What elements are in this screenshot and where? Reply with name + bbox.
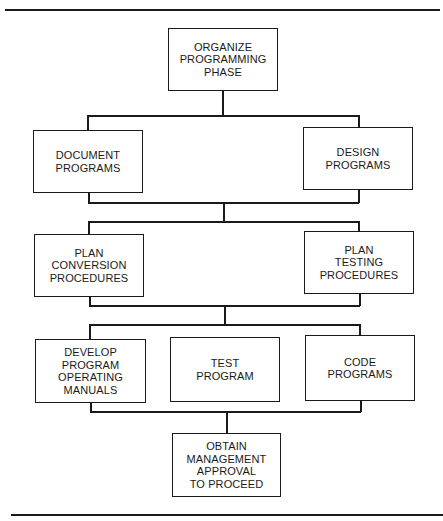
- node-label: DEVELOP PROGRAM OPERATING MANUALS: [58, 346, 123, 396]
- connector: [89, 324, 360, 326]
- bottom-rule: [11, 514, 443, 516]
- connector: [89, 324, 91, 339]
- connector: [87, 115, 89, 130]
- connector: [224, 305, 226, 325]
- connector: [358, 115, 360, 127]
- node-code-programs: CODE PROGRAMS: [305, 335, 415, 401]
- node-label: PLAN TESTING PROCEDURES: [320, 244, 399, 282]
- node-plan-conversion-procedures: PLAN CONVERSION PROCEDURES: [34, 234, 144, 297]
- node-label: DESIGN PROGRAMS: [326, 146, 391, 171]
- connector: [88, 221, 359, 223]
- node-organize-programming-phase: ORGANIZE PROGRAMMING PHASE: [168, 28, 278, 91]
- connector: [223, 202, 225, 222]
- connector: [358, 221, 360, 231]
- node-label: TEST PROGRAM: [196, 357, 254, 382]
- connector: [222, 91, 224, 116]
- node-label: OBTAIN MANAGEMENT APPROVAL TO PROCEED: [187, 440, 267, 490]
- node-develop-program-operating-manuals: DEVELOP PROGRAM OPERATING MANUALS: [35, 339, 146, 403]
- node-label: ORGANIZE PROGRAMMING PHASE: [180, 41, 267, 79]
- node-document-programs: DOCUMENT PROGRAMS: [33, 130, 143, 193]
- node-plan-testing-procedures: PLAN TESTING PROCEDURES: [304, 231, 414, 294]
- top-rule: [5, 9, 440, 11]
- connector: [226, 411, 228, 433]
- node-test-program: TEST PROGRAM: [170, 337, 280, 402]
- connector: [359, 324, 361, 335]
- connector: [87, 115, 359, 117]
- node-label: PLAN CONVERSION PROCEDURES: [50, 247, 129, 285]
- node-label: DOCUMENT PROGRAMS: [56, 149, 121, 174]
- node-label: CODE PROGRAMS: [328, 356, 393, 381]
- node-obtain-management-approval: OBTAIN MANAGEMENT APPROVAL TO PROCEED: [172, 433, 281, 497]
- connector: [88, 221, 90, 234]
- node-design-programs: DESIGN PROGRAMS: [303, 127, 413, 190]
